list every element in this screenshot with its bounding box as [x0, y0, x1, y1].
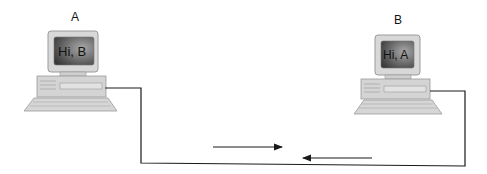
network-diagram	[0, 0, 487, 174]
keyboard-a	[24, 98, 117, 111]
keyboard-b	[354, 100, 442, 114]
screen-text-a: Hi, B	[58, 44, 86, 59]
computer-a	[24, 31, 117, 111]
computer-b	[354, 35, 442, 114]
screen-text-b: Hi, A	[383, 48, 408, 62]
monitor-stand-a	[60, 72, 86, 76]
computer-b-label: B	[394, 13, 402, 27]
computer-a-label: A	[71, 10, 79, 24]
monitor-stand-b	[385, 75, 411, 79]
